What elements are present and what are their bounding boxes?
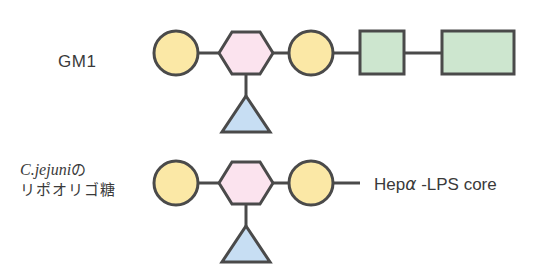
gm1-rectangle-icon [442,31,514,74]
cj-circle-1-icon [154,161,198,205]
gm1-label: GM1 [58,52,96,72]
gm1-circle-1-icon [154,31,198,75]
gm1-structure [154,31,514,132]
lps-core-label: Hepα -LPS core [374,174,497,195]
gm1-hexagon-icon [219,32,273,74]
cjejuni-structure [154,161,360,262]
cjejuni-label-line2: リポオリゴ糖 [20,180,116,200]
core-prefix: Hep [374,175,405,194]
glycan-diagram [0,0,544,278]
core-alpha: α [405,174,416,194]
cjejuni-label: C.jejuniの リポオリゴ糖 [20,160,116,200]
cjejuni-species: C.jejuni [20,161,71,178]
core-suffix: -LPS core [416,175,496,194]
gm1-square-icon [360,31,404,74]
cj-circle-2-icon [289,161,333,205]
cjejuni-particle: の [71,161,87,179]
gm1-triangle-icon [222,96,270,132]
cj-hexagon-icon [219,162,273,204]
gm1-circle-2-icon [289,31,333,75]
cj-triangle-icon [222,226,270,262]
cjejuni-label-line1: C.jejuniの [20,160,116,180]
